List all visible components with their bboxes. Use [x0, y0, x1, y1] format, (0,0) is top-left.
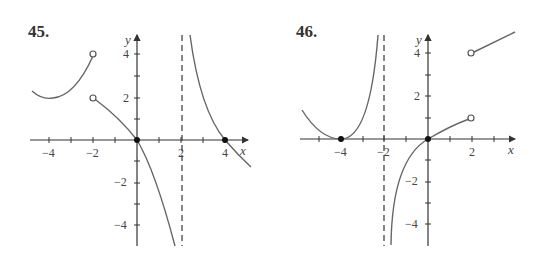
graph-45: 45. −4 −2 2 4 4: [28, 22, 251, 246]
y-tick-label: −4: [405, 217, 418, 231]
y-axis-label: y: [123, 32, 131, 47]
closed-point: [425, 136, 431, 142]
open-circle-point: [90, 51, 96, 57]
problem-number-46: 46.: [296, 22, 317, 41]
curve-left-parabola: [302, 35, 378, 139]
y-tick-label: 2: [414, 89, 420, 103]
y-tick-label: 4: [414, 46, 420, 60]
graph-46: 46. −4 −2 2 4 2: [296, 22, 515, 246]
closed-point: [134, 137, 140, 143]
problem-number-45: 45.: [28, 22, 49, 41]
line-right-piece: [474, 32, 515, 52]
figure-canvas: 45. −4 −2 2 4 4: [0, 0, 549, 255]
x-tick-label: 2: [178, 146, 184, 160]
y-tick-label: −4: [114, 218, 127, 232]
open-circle-point: [468, 115, 474, 121]
x-tick-label: −4: [42, 146, 55, 160]
closed-point: [222, 137, 228, 143]
curve-middle: [96, 100, 175, 246]
y-tick-label: −2: [405, 174, 418, 188]
open-circle-point: [90, 95, 96, 101]
y-tick-label: 2: [123, 91, 129, 105]
y-axis-label: y: [414, 32, 422, 47]
x-tick-label: −4: [334, 145, 347, 159]
x-tick-label: 4: [222, 146, 228, 160]
x-axis-label: x: [507, 142, 514, 157]
y-tick-label: 4: [123, 47, 129, 61]
y-tick-label: −2: [114, 175, 127, 189]
closed-point: [338, 136, 344, 142]
x-tick-label: 2: [469, 145, 475, 159]
open-circle-point: [468, 50, 474, 56]
x-tick-label: −2: [86, 146, 99, 160]
curve-left-parabola: [32, 56, 93, 98]
